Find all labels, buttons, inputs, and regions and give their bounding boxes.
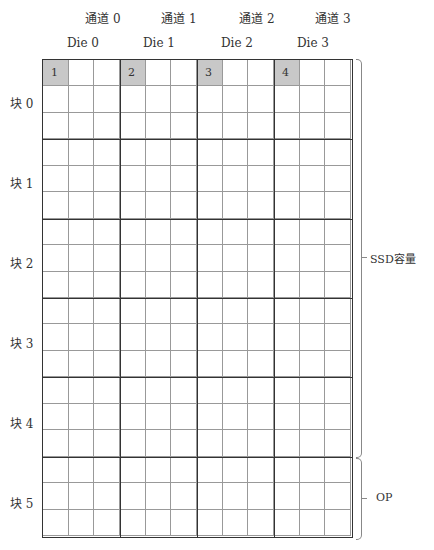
die-3-label: Die 3: [274, 36, 352, 50]
page-cell: [146, 324, 172, 350]
channel-0-label: 通道 0: [64, 9, 142, 26]
block-5-label: 块 5: [10, 494, 40, 511]
page-cell: [248, 377, 274, 403]
page-cell: [43, 166, 69, 192]
page-cell: [248, 457, 274, 483]
page-cell: [274, 166, 300, 192]
page-cell: [197, 377, 223, 403]
page-cell: [274, 404, 300, 430]
page-cell: [197, 351, 223, 377]
page-cell: [43, 86, 69, 112]
page-cell: [248, 404, 274, 430]
page-cell: [43, 510, 69, 536]
page-cell: [248, 113, 274, 139]
page-cell: [300, 219, 326, 245]
page-cell: 4: [274, 60, 300, 86]
page-cell: [146, 245, 172, 271]
page-cell: [94, 404, 120, 430]
page-cell: [94, 113, 120, 139]
page-cell: [223, 60, 249, 86]
page-cell: [146, 60, 172, 86]
page-cell: [223, 298, 249, 324]
page-cell: [120, 483, 146, 509]
page-cell: 3: [197, 60, 223, 86]
page-cell: [197, 483, 223, 509]
block-0-label: 块 0: [10, 94, 40, 111]
page-cell: [171, 245, 197, 271]
page-cell: [325, 219, 351, 245]
page-cell: [171, 377, 197, 403]
page-cell: [171, 351, 197, 377]
page-cell: [300, 298, 326, 324]
block-1-label: 块 1: [10, 174, 40, 191]
page-cell: [325, 86, 351, 112]
page-cell: [69, 219, 95, 245]
ssd-bracket-tick: [361, 257, 367, 258]
page-cell: [94, 219, 120, 245]
page-cell: [94, 86, 120, 112]
page-cell: [325, 404, 351, 430]
page-cell: [274, 272, 300, 298]
op-label: OP: [376, 491, 392, 504]
page-cell: [120, 86, 146, 112]
page-cell: [171, 483, 197, 509]
block-4-label: 块 4: [10, 414, 40, 431]
page-cell: [248, 430, 274, 456]
page-cell: [43, 430, 69, 456]
page-cell: [43, 245, 69, 271]
page-cell: [325, 483, 351, 509]
page-cell: [223, 192, 249, 218]
page-cell: [197, 113, 223, 139]
page-cell: [146, 113, 172, 139]
page-cell: [94, 430, 120, 456]
page-cell: [325, 324, 351, 350]
page-cell: [325, 60, 351, 86]
page-cell: [248, 166, 274, 192]
page-cell: [300, 351, 326, 377]
page-cell: [197, 166, 223, 192]
page-cell: [274, 139, 300, 165]
page-cell: [94, 351, 120, 377]
page-cell: [171, 324, 197, 350]
page-cell: [120, 166, 146, 192]
page-cell: [171, 457, 197, 483]
page-cell: [146, 457, 172, 483]
page-cell: [120, 272, 146, 298]
page-cell: [146, 192, 172, 218]
page-number: 2: [128, 66, 135, 79]
page-cell: [223, 219, 249, 245]
channel-2-label: 通道 2: [218, 9, 296, 26]
page-cell: [171, 219, 197, 245]
page-cell: [300, 113, 326, 139]
page-cell: [197, 139, 223, 165]
page-cell: [43, 219, 69, 245]
page-cell: [94, 192, 120, 218]
page-cell: [94, 510, 120, 536]
page-cell: [325, 510, 351, 536]
page-cell: [94, 298, 120, 324]
page-number: 3: [205, 66, 212, 79]
page-cell: [223, 404, 249, 430]
page-cell: [94, 60, 120, 86]
page-cell: [171, 60, 197, 86]
channel-1-label: 通道 1: [140, 9, 218, 26]
page-cell: [197, 272, 223, 298]
page-cell: [69, 86, 95, 112]
page-cell: [274, 377, 300, 403]
page-cell: [223, 457, 249, 483]
page-cell: [325, 272, 351, 298]
page-cell: [248, 298, 274, 324]
page-cell: [325, 113, 351, 139]
page-cell: [223, 430, 249, 456]
page-cell: [223, 510, 249, 536]
page-cell: [248, 483, 274, 509]
ssd-capacity-bracket: [356, 59, 362, 458]
page-cell: [274, 510, 300, 536]
page-cell: [120, 510, 146, 536]
page-cell: [274, 457, 300, 483]
page-cell: [146, 272, 172, 298]
page-cell: [274, 483, 300, 509]
page-cell: [274, 86, 300, 112]
page-cell: [300, 192, 326, 218]
page-cell: [300, 272, 326, 298]
